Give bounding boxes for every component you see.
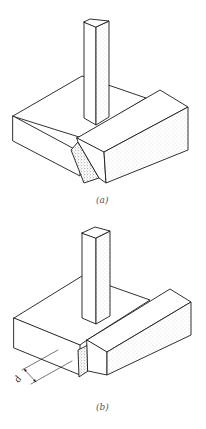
- caption-a: (a): [96, 195, 109, 205]
- figure-canvas: (a) d (b): [0, 0, 206, 429]
- gap-block-b: [78, 345, 88, 377]
- footing-illustration: (a) d (b): [0, 0, 206, 429]
- panel-b: d (b): [12, 227, 191, 412]
- panel-a: (a): [13, 19, 188, 205]
- caption-b: (b): [96, 402, 109, 412]
- dimension-label-d: d: [12, 374, 24, 384]
- column-b: [82, 227, 110, 324]
- column-a: [84, 19, 109, 125]
